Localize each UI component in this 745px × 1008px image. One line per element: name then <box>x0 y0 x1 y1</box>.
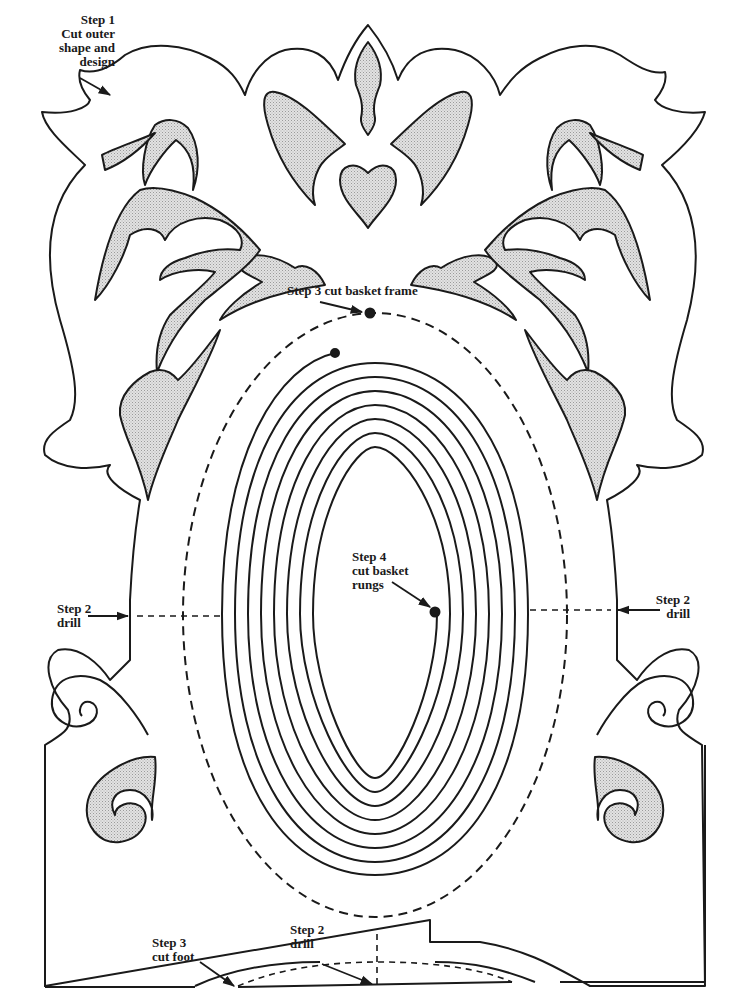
arrow-step3-frame <box>320 302 362 312</box>
waste-right-teardrop <box>485 188 650 372</box>
waste-right-heart <box>547 120 602 190</box>
waste-top-spear <box>355 42 381 135</box>
step2-left-label-line2: drill <box>57 616 91 630</box>
step2-left-label: Step 2 drill <box>57 602 91 630</box>
step1-label-line4: design <box>20 55 115 69</box>
step2-bottom-label: Step 2 drill <box>290 923 324 951</box>
pattern-canvas: Step 1 Cut outer shape and design Step 3… <box>0 0 745 1008</box>
step2-left-label-line1: Step 2 <box>57 602 91 616</box>
step1-label-line1: Step 1 <box>20 13 115 27</box>
basket-frame-cutline <box>183 313 567 917</box>
rung-end-dot <box>431 608 440 617</box>
waste-right-lobe <box>391 92 472 205</box>
frame-start-dot <box>366 309 375 318</box>
step1-label-line2: Cut outer <box>20 27 115 41</box>
waste-heart <box>340 166 396 228</box>
arrow-step2-bottom <box>322 964 372 984</box>
step3-foot-label-line1: Step 3 <box>152 936 194 950</box>
left-scroll-outline <box>52 676 148 735</box>
foot-arc-right <box>435 962 535 982</box>
waste-left-swirl <box>87 757 156 842</box>
foot-arc-left <box>195 962 320 986</box>
step3-frame-label-text: Step 3 cut basket frame <box>287 284 418 298</box>
step3-frame-label: Step 3 cut basket frame <box>287 284 418 298</box>
step4-label-line1: Step 4 <box>352 550 409 564</box>
step1-label-line3: shape and <box>20 41 115 55</box>
step3-foot-label-line2: cut foot <box>152 950 194 964</box>
step3-foot-label: Step 3 cut foot <box>152 936 194 964</box>
step4-label-line2: cut basket <box>352 564 409 578</box>
waste-right-droplet <box>525 330 625 500</box>
waste-left-heart <box>143 120 198 190</box>
step2-right-label: Step 2 drill <box>650 593 690 621</box>
basket-pattern-drawing <box>0 0 745 1008</box>
basket-rungs-spiral <box>222 353 528 875</box>
step2-bottom-label-line2: drill <box>290 937 324 951</box>
foot-cutline <box>238 982 512 987</box>
waste-left-teardrop <box>95 188 260 372</box>
waste-left-droplet <box>120 330 220 500</box>
step1-label: Step 1 Cut outer shape and design <box>20 13 115 69</box>
waste-right-swirl <box>594 757 663 842</box>
step2-bottom-label-line1: Step 2 <box>290 923 324 937</box>
step2-right-label-line1: Step 2 <box>650 593 690 607</box>
step2-right-label-line2: drill <box>650 607 690 621</box>
step4-label-line3: rungs <box>352 578 409 592</box>
rung-start-dot <box>331 349 339 357</box>
step4-label: Step 4 cut basket rungs <box>352 550 409 592</box>
waste-left-lobe <box>264 92 345 205</box>
